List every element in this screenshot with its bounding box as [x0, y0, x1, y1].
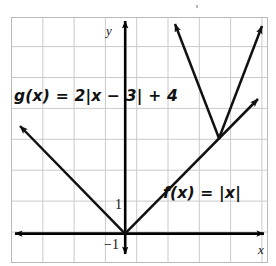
- y-axis-label: y: [106, 24, 112, 37]
- tick-label-one: 1: [115, 198, 122, 212]
- x-axis-label: x: [258, 243, 264, 256]
- grid-background: [12, 18, 268, 263]
- tick-label-negative-one: −1: [104, 238, 119, 252]
- graph-screenshot: g(x) = 2|x − 3| + 4 f(x) = |x| y x 1 −1: [0, 0, 276, 266]
- equation-f-text: f(x) = |x|: [163, 184, 241, 202]
- equation-label-f: f(x) = |x|: [163, 186, 241, 202]
- coordinate-plane-figure: [0, 0, 276, 266]
- equation-label-g: g(x) = 2|x − 3| + 4: [14, 89, 178, 105]
- equation-g-text: g(x) = 2|x − 3| + 4: [14, 87, 178, 105]
